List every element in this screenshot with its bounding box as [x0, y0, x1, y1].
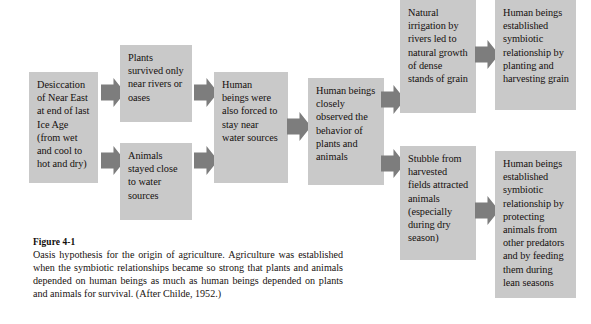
figure-caption-block: Figure 4-1 Oasis hypothesis for the orig… [33, 236, 343, 301]
flow-node-text: Animals stayed close to water sources [128, 150, 177, 201]
flow-node-plants-survived: Plants survived only near rivers or oase… [120, 45, 192, 122]
flow-node-symbiosis-protecting: Human beings established symbiotic relat… [495, 151, 576, 298]
flow-node-text: Human beings established symbiotic relat… [503, 7, 569, 84]
figure-number: Figure 4-1 [33, 236, 343, 248]
flow-node-text: Desiccation of Near East at end of last … [37, 79, 89, 169]
figure-caption-text: Oasis hypothesis for the origin of agric… [33, 249, 343, 301]
flow-node-text: Natural irrigation by rivers led to natu… [408, 7, 468, 84]
flow-node-text: Human beings were also forced to stay ne… [222, 79, 278, 143]
flow-node-symbiosis-planting: Human beings established symbiotic relat… [495, 0, 576, 110]
flow-node-desiccation: Desiccation of Near East at end of last … [29, 72, 98, 183]
flow-node-animals-stayed: Animals stayed close to water sources [120, 143, 192, 220]
flow-node-text: Stubble from harvested fields attracted … [408, 153, 468, 243]
flow-node-natural-irrigation: Natural irrigation by rivers led to natu… [400, 0, 476, 113]
flow-node-humans-observed: Human beings closely observed the behavi… [308, 78, 384, 185]
flow-node-stubble-attracted: Stubble from harvested fields attracted … [400, 146, 476, 260]
figure-canvas: Desiccation of Near East at end of last … [0, 0, 591, 324]
flow-node-text: Plants survived only near rivers or oase… [128, 52, 184, 103]
flow-node-humans-forced-water: Human beings were also forced to stay ne… [214, 72, 288, 183]
flow-node-text: Human beings established symbiotic relat… [503, 158, 564, 288]
flow-node-text: Human beings closely observed the behavi… [316, 85, 375, 162]
